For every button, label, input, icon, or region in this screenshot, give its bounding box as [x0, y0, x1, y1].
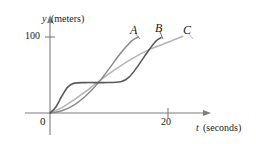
chart-figure: y (meters) 100 0 20 t (seconds) A B C — [0, 0, 256, 144]
y-tick-label-100: 100 — [25, 31, 40, 41]
curve-b — [50, 38, 161, 113]
curve-a — [50, 37, 139, 113]
x-axis-arrowhead — [203, 110, 211, 116]
curve-c — [50, 36, 183, 113]
origin-label: 0 — [40, 116, 46, 127]
x-axis-units-label: (seconds) — [203, 123, 241, 133]
curve-label-c: C — [183, 24, 191, 36]
y-axis-units-label: (meters) — [51, 14, 84, 24]
y-axis-variable-label: y — [42, 14, 46, 24]
x-tick-label-20: 20 — [161, 117, 171, 127]
x-axis-variable-label: t — [196, 123, 199, 133]
curve-label-a: A — [130, 24, 137, 36]
curve-label-b: B — [155, 22, 162, 34]
